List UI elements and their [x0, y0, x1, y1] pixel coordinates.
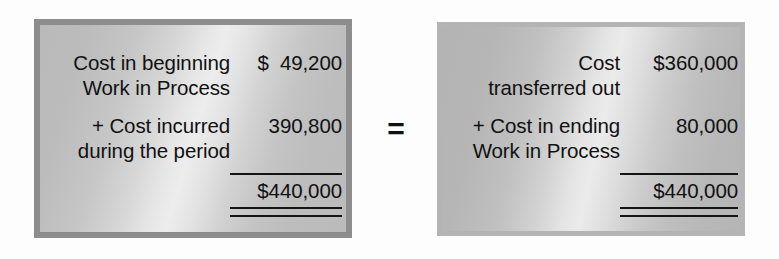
total-rule-single — [620, 173, 738, 175]
row-label: + Cost incurred during the period — [42, 113, 230, 163]
equals-sign: = — [384, 116, 408, 142]
total-rule-double — [620, 207, 738, 217]
left-cost-reconciliation-box: Cost in beginning Work in Process $ 49,2… — [34, 19, 352, 238]
table-row: + Cost incurred during the period 390,80… — [42, 113, 342, 163]
row-label: + Cost in ending Work in Process — [444, 113, 620, 163]
row-label: Cost in beginning Work in Process — [42, 50, 230, 100]
right-box-rows: Cost transferred out $360,000 + Cost in … — [442, 27, 740, 231]
left-total-value: $440,000 — [230, 178, 342, 203]
left-total-block: $440,000 — [230, 173, 342, 217]
row-amount: $360,000 — [620, 50, 738, 75]
table-row: Cost transferred out $360,000 — [444, 50, 738, 100]
total-rule-double — [230, 207, 342, 217]
right-total-value: $440,000 — [620, 178, 738, 203]
diagram-canvas: Cost in beginning Work in Process $ 49,2… — [0, 0, 779, 259]
left-box-rows: Cost in beginning Work in Process $ 49,2… — [40, 25, 346, 232]
row-amount: $ 49,200 — [230, 50, 342, 75]
right-total-block: $440,000 — [620, 173, 738, 217]
row-label: Cost transferred out — [444, 50, 620, 100]
row-amount: 80,000 — [620, 113, 738, 138]
total-rule-single — [230, 173, 342, 175]
table-row: + Cost in ending Work in Process 80,000 — [444, 113, 738, 163]
right-cost-reconciliation-box: Cost transferred out $360,000 + Cost in … — [437, 22, 745, 236]
table-row: Cost in beginning Work in Process $ 49,2… — [42, 50, 342, 100]
row-amount: 390,800 — [230, 113, 342, 138]
